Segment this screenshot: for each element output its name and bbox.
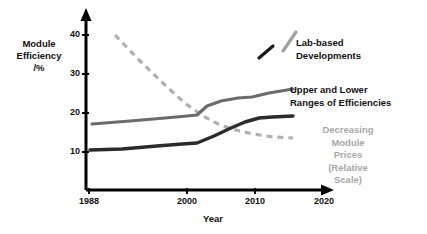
x-tick-label-1988: 1988: [67, 196, 111, 206]
y-tick-label-30: 30: [58, 68, 80, 78]
y-tick-label-10: 10: [58, 146, 80, 156]
x-tick-label-2000: 2000: [165, 196, 209, 206]
annotation-lab-based: Lab-based Developments: [296, 37, 424, 62]
y-axis-arrowhead: [81, 8, 92, 21]
chart-figure: Module Efficiency /% Year 40 30 20 10 19…: [0, 0, 427, 234]
x-tick-label-2020: 2020: [302, 196, 346, 206]
annotation-module-prices: Decreasing Module Prices (Relative Scale…: [300, 124, 396, 187]
x-axis-title: Year: [168, 213, 258, 225]
lab-dash-gray-icon: [283, 32, 296, 51]
y-tick-label-40: 40: [58, 29, 80, 39]
x-tick-label-2010: 2010: [233, 196, 277, 206]
annotation-efficiency-ranges: Upper and Lower Ranges of Efficiencies: [290, 84, 426, 109]
lab-dash-dark-icon: [259, 46, 273, 58]
y-tick-label-20: 20: [58, 107, 80, 117]
